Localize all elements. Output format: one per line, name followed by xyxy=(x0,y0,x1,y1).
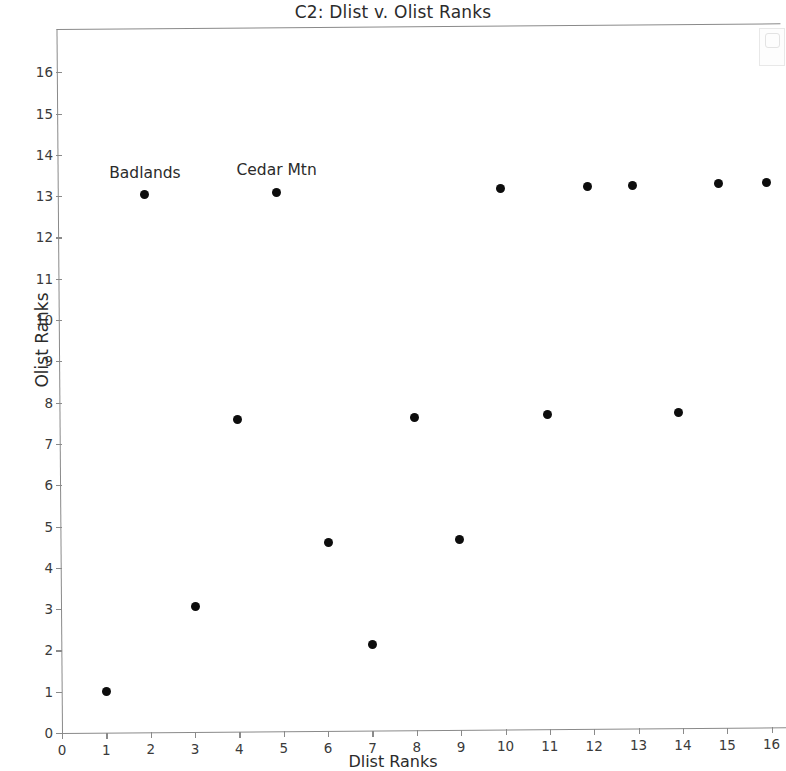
data-point xyxy=(762,178,771,187)
data-point xyxy=(140,190,149,199)
data-point xyxy=(714,179,723,188)
data-point xyxy=(102,687,111,696)
data-point xyxy=(543,410,552,419)
data-point xyxy=(410,413,419,422)
plot-area: BadlandsCedar Mtn xyxy=(62,29,786,733)
x-tick-label: 15 xyxy=(713,737,741,753)
x-tick-label: 14 xyxy=(669,737,697,753)
data-point xyxy=(674,408,683,417)
x-tick-label: 16 xyxy=(758,736,786,752)
point-annotation: Badlands xyxy=(109,164,181,182)
data-point xyxy=(191,602,200,611)
scatter-plot-figure: C2: Dlist v. Olist Ranks 012345678910111… xyxy=(0,0,786,771)
data-point xyxy=(455,535,464,544)
data-point xyxy=(324,538,333,547)
y-axis-label: Olist Ranks xyxy=(32,280,52,400)
point-annotation: Cedar Mtn xyxy=(237,161,317,179)
data-point xyxy=(628,181,637,190)
data-point xyxy=(583,182,592,191)
data-point xyxy=(368,640,377,649)
data-point xyxy=(272,188,281,197)
data-point xyxy=(233,415,242,424)
x-axis-label: Dlist Ranks xyxy=(0,752,786,771)
data-point xyxy=(496,184,505,193)
